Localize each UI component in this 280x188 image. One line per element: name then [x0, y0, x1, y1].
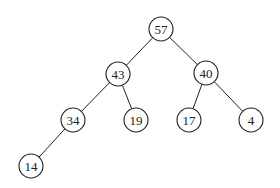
tree-node-57: 57 — [149, 17, 173, 41]
node-label: 57 — [155, 22, 169, 37]
binary-tree-diagram: 574340341917414 — [0, 0, 280, 188]
node-label: 40 — [200, 66, 213, 81]
tree-node-19: 19 — [124, 108, 148, 132]
node-label: 4 — [248, 113, 255, 128]
tree-node-34: 34 — [61, 108, 85, 132]
node-label: 17 — [183, 113, 197, 128]
tree-node-4: 4 — [239, 108, 263, 132]
tree-node-14: 14 — [19, 154, 43, 178]
node-label: 19 — [130, 113, 143, 128]
tree-edges — [39, 37, 243, 157]
tree-node-40: 40 — [194, 61, 218, 85]
tree-edge-57-43 — [126, 38, 152, 66]
tree-nodes: 574340341917414 — [19, 17, 263, 178]
tree-node-43: 43 — [106, 62, 130, 86]
tree-edge-40-4 — [214, 82, 242, 112]
tree-edge-43-19 — [122, 85, 131, 109]
tree-node-17: 17 — [177, 108, 201, 132]
tree-edge-43-34 — [81, 83, 109, 112]
node-label: 43 — [112, 67, 125, 82]
tree-edge-34-14 — [39, 129, 65, 157]
tree-edge-40-17 — [193, 84, 202, 108]
node-label: 34 — [67, 113, 81, 128]
tree-edge-57-40 — [170, 37, 198, 64]
node-label: 14 — [25, 159, 39, 174]
